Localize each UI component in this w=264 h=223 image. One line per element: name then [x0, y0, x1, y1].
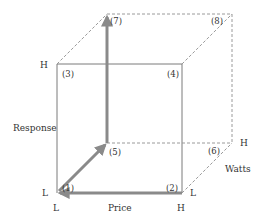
- response-low-label: L: [42, 188, 48, 198]
- price-axis-label: Price: [108, 203, 132, 213]
- vertex-2-label: (2): [166, 183, 178, 193]
- price-high-label: H: [177, 203, 185, 213]
- vertex-4-label: (4): [167, 69, 179, 79]
- watts-axis-label: Watts: [225, 164, 251, 174]
- diag-4-8: [182, 14, 232, 64]
- vertex-3-label: (3): [62, 69, 74, 79]
- response-axis-label: Response: [13, 123, 57, 133]
- vertex-7-label: (7): [110, 16, 122, 26]
- diag-3-7: [57, 14, 107, 64]
- vertex-6-label: (6): [208, 146, 220, 156]
- watts-high-label: H: [240, 138, 248, 148]
- vertex-1-label: (1): [62, 183, 74, 193]
- watts-low-label: L: [190, 188, 196, 198]
- factorial-cube-diagram: (1) (2) (3) (4) (5) (6) (7) (8) H L L H …: [0, 0, 264, 223]
- vertex-5-label: (5): [109, 147, 121, 157]
- response-high-label: H: [40, 60, 48, 70]
- vertex-8-label: (8): [211, 16, 223, 26]
- price-low-label: L: [53, 203, 59, 213]
